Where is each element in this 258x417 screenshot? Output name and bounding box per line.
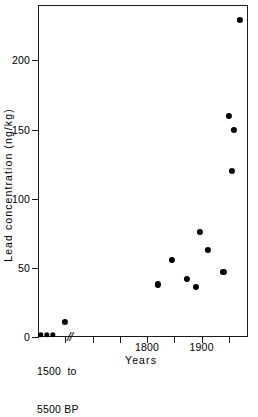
x-tick bbox=[229, 337, 230, 343]
y-tick-label-150: 150 bbox=[12, 124, 30, 136]
x-tick bbox=[120, 337, 121, 343]
y-tick-label-0: 0 bbox=[24, 331, 30, 343]
y-tick-label-100: 100 bbox=[12, 193, 30, 205]
y-axis-title: Lead concentration (ng/kg) bbox=[2, 80, 14, 290]
y-tick-label-50: 50 bbox=[18, 262, 30, 274]
y-tick bbox=[32, 337, 39, 338]
x-axis-title: Years bbox=[0, 354, 258, 366]
plot-area bbox=[38, 5, 248, 337]
y-tick bbox=[32, 199, 39, 200]
y-tick bbox=[32, 130, 39, 131]
x-tick bbox=[93, 337, 94, 343]
axis-break-label-line1: 1500 to bbox=[37, 365, 79, 378]
x-tick-label-1800: 1800 bbox=[135, 341, 159, 353]
axis-break-label: 1500 to 5500 BP bbox=[37, 340, 79, 417]
x-tick bbox=[174, 337, 175, 343]
y-tick-label-200: 200 bbox=[12, 54, 30, 66]
axis-break-label-line2: 5500 BP bbox=[37, 403, 79, 416]
x-tick-label-1900: 1900 bbox=[190, 341, 214, 353]
y-tick bbox=[32, 268, 39, 269]
y-tick bbox=[32, 60, 39, 61]
